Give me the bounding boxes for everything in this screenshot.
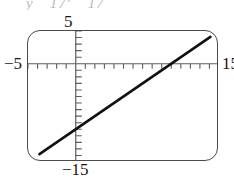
clipped-fragment-2: 17x [50,0,72,10]
plot-area [28,31,218,161]
clipped-fragment-1: y [26,0,34,10]
x-axis [28,64,218,69]
axis-label-ymax: 5 [64,12,73,32]
line-series [39,37,210,154]
clipped-fragment-2-superscript: x [67,0,72,4]
clipped-fragment-3: 17 [88,0,105,10]
graphing-calculator-screen [27,30,218,161]
clipped-formula-fragment: y17x17 [26,0,206,10]
axis-label-ymin: −15 [62,160,89,180]
y-axis [76,31,82,161]
axis-label-xmin: −5 [4,54,22,74]
axis-label-xmax: 15 [222,54,234,74]
